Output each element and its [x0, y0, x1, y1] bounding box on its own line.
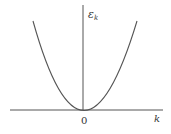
dispersion-diagram: εk k 0 [0, 0, 171, 134]
origin-label: 0 [81, 115, 87, 126]
parabola-curve [33, 21, 137, 111]
y-axis-label: εk [88, 8, 98, 22]
x-axis-label: k [154, 113, 160, 124]
